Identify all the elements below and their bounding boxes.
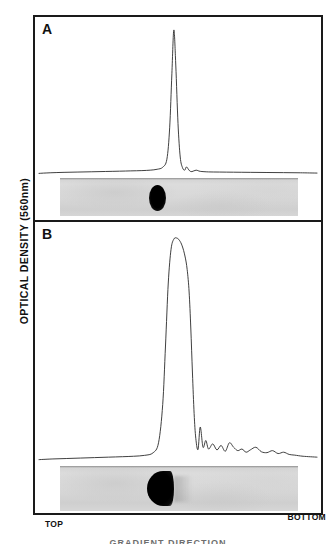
figure-frame: A B [33, 15, 323, 515]
densitometry-trace-a [35, 17, 321, 220]
trace-a-path [39, 30, 317, 173]
panel-a: A [35, 17, 321, 220]
x-axis-label-top: TOP [45, 519, 63, 529]
panel-b: B [35, 220, 321, 514]
trace-b-path [39, 238, 317, 460]
panel-a-letter: A [42, 21, 52, 37]
densitometry-trace-b [35, 222, 321, 514]
panel-b-letter: B [42, 226, 52, 242]
bottom-caption: GRADIENT DIRECTION [0, 538, 336, 544]
y-axis-label: OPTICAL DENSITY (560nm) [18, 101, 30, 401]
